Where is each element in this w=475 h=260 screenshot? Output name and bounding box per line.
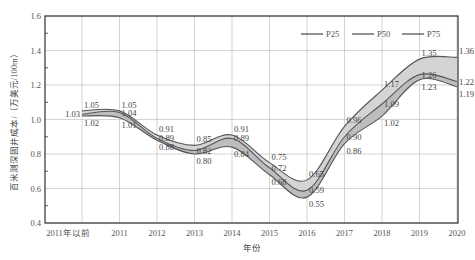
y-axis-title: 百米测深固井成本/（万美元/100m） <box>9 49 19 190</box>
label-p25: 0.80 <box>197 156 212 166</box>
y-tick-label: 1.0 <box>30 115 41 125</box>
x-tick-label: 2011年以前 <box>46 228 90 238</box>
x-tick-label: 2014 <box>224 228 242 238</box>
label-p75: 1.36 <box>459 46 474 56</box>
label-p25: 0.68 <box>272 177 287 187</box>
legend-label-p75: P75 <box>427 29 440 39</box>
x-tick-label: 2016 <box>299 228 316 238</box>
label-p75: 0.75 <box>272 152 287 162</box>
label-p50: 1.26 <box>422 70 437 80</box>
label-p75: 0.96 <box>347 115 362 125</box>
percentile-band-chart: 1.051.031.021.051.041.010.910.890.880.85… <box>0 0 475 260</box>
x-tick-label: 2019 <box>411 228 428 238</box>
legend-label-p50: P50 <box>377 29 390 39</box>
y-tick-label: 1.4 <box>30 46 41 56</box>
label-p75: 0.85 <box>197 134 212 144</box>
y-tick-label: 0.4 <box>30 218 41 228</box>
label-p50: 0.72 <box>272 163 287 173</box>
label-p50: 1.22 <box>459 77 474 87</box>
label-p25: 0.84 <box>234 149 250 159</box>
label-p25: 1.01 <box>122 120 137 130</box>
label-p50: 1.03 <box>65 109 80 119</box>
label-p25: 1.19 <box>459 89 474 99</box>
label-p50: 1.04 <box>122 108 138 118</box>
y-tick-label: 1.6 <box>30 11 41 21</box>
x-tick-label: 2011 <box>111 228 128 238</box>
label-p25: 1.02 <box>384 118 399 128</box>
label-p25: 0.55 <box>309 199 324 209</box>
label-p50: 0.82 <box>197 146 212 156</box>
label-p75: 1.35 <box>422 48 437 58</box>
y-axis-ticks: 0.40.60.81.01.21.41.6 <box>30 11 41 228</box>
label-p25: 0.88 <box>159 142 174 152</box>
label-p75: 1.05 <box>84 100 99 110</box>
label-p50: 0.89 <box>234 133 249 143</box>
x-tick-label: 2013 <box>186 228 203 238</box>
x-axis-title: 年份 <box>243 243 261 253</box>
legend-label-p25: P25 <box>326 29 339 39</box>
label-p25: 0.86 <box>347 146 362 156</box>
y-tick-label: 0.6 <box>30 184 41 194</box>
y-tick-label: 1.2 <box>30 80 41 90</box>
x-tick-label: 2018 <box>374 228 391 238</box>
label-p50: 1.09 <box>384 99 399 109</box>
y-tick-label: 0.8 <box>30 149 41 159</box>
label-p50: 0.90 <box>347 132 362 142</box>
label-p25: 1.23 <box>422 82 437 92</box>
x-tick-label: 2017 <box>336 228 353 238</box>
x-axis-ticks: 2011年以前201120122013201420152016201720182… <box>46 228 465 238</box>
x-tick-label: 2015 <box>261 228 278 238</box>
label-p25: 1.02 <box>84 118 99 128</box>
x-tick-label: 2012 <box>149 228 166 238</box>
label-p75: 0.65 <box>309 169 324 179</box>
label-p75: 1.17 <box>384 79 399 89</box>
label-p50: 0.59 <box>309 185 324 195</box>
x-tick-label: 2020 <box>449 228 466 238</box>
